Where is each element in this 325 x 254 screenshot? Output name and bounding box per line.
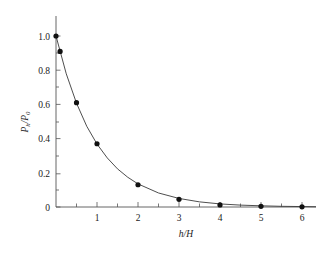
data-point [74, 100, 79, 105]
figure-container: 0 0.2 0.4 0.6 0.8 1.0 1 2 3 4 5 6 h/H Ph… [0, 0, 325, 254]
data-point [299, 204, 304, 209]
x-tick-label-5: 5 [259, 213, 264, 223]
y-tick-label-1-0: 1.0 [38, 32, 50, 42]
y-tick-label-0-2: 0.2 [38, 169, 50, 179]
x-axis-title-group: h/H [179, 229, 194, 239]
y-axis-ticks [56, 36, 61, 207]
data-point [176, 197, 181, 202]
x-axis-title: h/H [179, 229, 194, 239]
y-axis-title: Ph/P0 [20, 111, 31, 134]
x-tick-label-2: 2 [136, 213, 141, 223]
x-axis-tick-labels: 1 2 3 4 5 6 [95, 213, 305, 223]
y-tick-label-0-4: 0.4 [38, 134, 50, 144]
y-axis-title-group: Ph/P0 [20, 111, 31, 134]
x-tick-label-3: 3 [177, 213, 182, 223]
y-axis-tick-labels: 0 0.2 0.4 0.6 0.8 1.0 [38, 32, 50, 213]
data-point [94, 141, 99, 146]
data-point [53, 33, 58, 38]
y-tick-label-0: 0 [45, 203, 50, 213]
x-tick-label-1: 1 [95, 213, 100, 223]
data-points-group [53, 33, 304, 209]
data-point [258, 204, 263, 209]
chart-canvas: 0 0.2 0.4 0.6 0.8 1.0 1 2 3 4 5 6 h/H Ph… [0, 0, 325, 254]
y-tick-label-0-8: 0.8 [38, 66, 50, 76]
y-tick-label-0-6: 0.6 [38, 100, 50, 110]
y-axis-title-sub2: 0 [24, 111, 31, 115]
x-axis-title-denominator: H [185, 229, 194, 239]
data-point [135, 182, 140, 187]
axes-group [56, 16, 316, 207]
x-tick-label-6: 6 [300, 213, 305, 223]
x-tick-label-4: 4 [218, 213, 223, 223]
fitted-curve [56, 36, 316, 207]
data-point [217, 202, 222, 207]
data-point [58, 49, 63, 54]
